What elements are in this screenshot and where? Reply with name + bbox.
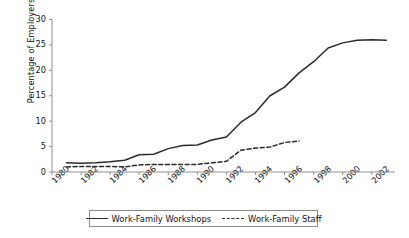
- dashed-line-icon: [222, 218, 244, 219]
- legend-item-label: Work-Family Staff: [248, 214, 321, 224]
- chart-figure: Percentage of Employers 051015202530 198…: [0, 0, 409, 238]
- series-line-work-family-workshops: [67, 40, 387, 164]
- legend-item[interactable]: Work-Family Workshops: [86, 214, 212, 224]
- legend-item-label: Work-Family Workshops: [112, 214, 212, 224]
- solid-line-icon: [86, 218, 108, 219]
- plot-area: [0, 0, 409, 238]
- legend-item[interactable]: Work-Family Staff: [222, 214, 321, 224]
- chart-legend: Work-Family WorkshopsWork-Family Staff: [89, 210, 318, 227]
